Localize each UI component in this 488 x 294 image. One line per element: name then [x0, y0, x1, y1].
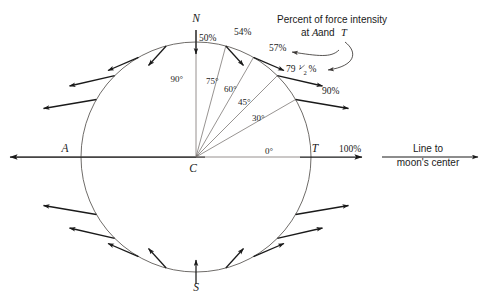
force-arrow-45	[277, 76, 322, 86]
force-arrow-315	[277, 228, 322, 238]
radial-45	[196, 76, 277, 157]
force-arrow-300	[254, 244, 285, 257]
annotation-line-2: at A and T	[301, 27, 348, 38]
point-label-C: C	[189, 162, 197, 174]
percent-label-0deg: 100%	[339, 144, 361, 154]
radial-60	[196, 57, 254, 157]
force-arrow-330	[296, 206, 349, 215]
radial-75	[196, 46, 226, 157]
percent-label-90deg: 50%	[199, 33, 217, 43]
force-arrow-30	[296, 100, 349, 109]
percent-label-60deg: 57%	[269, 43, 287, 53]
annotation-line-1: Percent of force intensity	[277, 14, 387, 25]
svg-text:2: 2	[304, 69, 307, 76]
angle-label-45: 45°	[238, 97, 251, 107]
diagram-canvas: N S A T C 90° 75° 60° 45° 30° 0° 50% 54%…	[0, 0, 488, 294]
leader-curve-to-57	[292, 50, 339, 56]
force-arrow-210	[44, 206, 97, 215]
svg-text:and: and	[318, 27, 335, 38]
angle-label-30: 30°	[252, 113, 265, 123]
point-label-N: N	[191, 12, 201, 24]
force-arrow-135	[70, 76, 115, 86]
angle-label-75: 75°	[206, 76, 219, 86]
force-arrow-60	[254, 57, 285, 70]
angle-label-0: 0°	[265, 146, 274, 156]
svg-text:T: T	[341, 27, 348, 38]
radial-30	[196, 100, 296, 158]
percent-label-75deg: 54%	[234, 27, 252, 37]
svg-text:at: at	[301, 27, 310, 38]
leader-curve-to-79half	[328, 42, 353, 70]
angle-label-90: 90°	[170, 74, 183, 84]
svg-text:79: 79	[286, 64, 296, 74]
tidal-force-diagram: N S A T C 90° 75° 60° 45° 30° 0° 50% 54%…	[0, 0, 488, 294]
force-arrow-120	[108, 57, 139, 70]
svg-text:%: %	[309, 64, 317, 74]
force-arrow-150	[44, 100, 97, 109]
point-label-A: A	[60, 142, 69, 154]
angle-label-60: 60°	[224, 84, 237, 94]
force-arrow-240	[108, 244, 139, 257]
moon-line-label-1: Line to	[413, 143, 443, 154]
point-label-S: S	[193, 281, 199, 293]
percent-label-30deg: 90%	[322, 86, 340, 96]
point-label-T: T	[312, 142, 320, 154]
force-arrow-225	[70, 228, 115, 238]
percent-label-45deg: 79 1 2 %	[286, 63, 317, 76]
moon-line-label-2: moon's center	[397, 157, 460, 168]
